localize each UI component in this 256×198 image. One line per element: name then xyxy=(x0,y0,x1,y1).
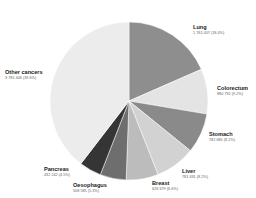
slice-name: Breast xyxy=(152,181,178,187)
slice-label-breast: Breast626 679 (6.6%) xyxy=(152,181,178,191)
slice-value: 3 781 406 (39.6%) xyxy=(5,77,43,81)
slice-label-liver: Liver781 631 (8.2%) xyxy=(182,169,208,179)
slice-value: 1 761 007 (18.4%) xyxy=(193,32,224,36)
slice-value: 781 631 (8.2%) xyxy=(182,176,208,180)
slice-label-oesophagus: Oesophagus508 585 (5.3%) xyxy=(73,183,107,193)
slice-name: Stomach xyxy=(209,132,235,138)
slice-name: Oesophagus xyxy=(73,183,107,189)
slice-label-other-cancers: Other cancers3 781 406 (39.6%) xyxy=(5,70,43,80)
slice-name: Other cancers xyxy=(5,70,43,76)
slice-value: 432 242 (4.5%) xyxy=(44,174,70,178)
slice-value: 782 685 (8.2%) xyxy=(209,139,235,143)
slice-value: 508 585 (5.3%) xyxy=(73,190,107,194)
slice-label-stomach: Stomach782 685 (8.2%) xyxy=(209,132,235,142)
slice-name: Lung xyxy=(193,25,224,31)
slice-name: Colorectum xyxy=(217,86,248,92)
pie-chart: Lung1 761 007 (18.4%)Colorectum880 792 (… xyxy=(0,0,256,198)
slice-value: 626 679 (6.6%) xyxy=(152,188,178,192)
slice-name: Liver xyxy=(182,169,208,175)
slice-value: 880 792 (9.2%) xyxy=(217,93,248,97)
slice-label-lung: Lung1 761 007 (18.4%) xyxy=(193,25,224,35)
slice-label-pancreas: Pancreas432 242 (4.5%) xyxy=(44,167,70,177)
slice-label-colorectum: Colorectum880 792 (9.2%) xyxy=(217,86,248,96)
slice-name: Pancreas xyxy=(44,167,70,173)
